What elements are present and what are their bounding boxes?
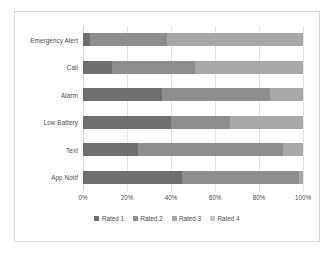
- bar-row: Call: [83, 61, 303, 74]
- bar-segment[interactable]: [138, 143, 283, 156]
- x-tick-label: 20%: [121, 194, 134, 201]
- x-tick-label: 0%: [78, 194, 87, 201]
- legend-label: Rated 3: [179, 215, 201, 222]
- x-tick-label: 40%: [165, 194, 178, 201]
- bar-segment[interactable]: [112, 61, 196, 74]
- legend-label: Rated 1: [102, 215, 124, 222]
- legend-label: Rated 4: [218, 215, 240, 222]
- legend-swatch-icon: [94, 216, 99, 221]
- bar-segment[interactable]: [171, 116, 230, 129]
- legend-swatch-icon: [133, 216, 138, 221]
- bar-segment[interactable]: [83, 88, 162, 101]
- bar-track: [83, 116, 303, 129]
- legend-swatch-icon: [172, 216, 177, 221]
- legend-item-2[interactable]: Rated 2: [133, 215, 163, 222]
- bar-track: [83, 33, 303, 46]
- bar-segment[interactable]: [230, 116, 303, 129]
- bar-segment[interactable]: [270, 88, 303, 101]
- legend-label: Rated 2: [140, 215, 162, 222]
- bar-segment[interactable]: [167, 33, 303, 46]
- category-label: App Notif: [51, 174, 78, 181]
- legend-item-3[interactable]: Rated 3: [172, 215, 202, 222]
- bar-segment[interactable]: [83, 143, 138, 156]
- bar-segment[interactable]: [162, 88, 270, 101]
- gridline-100: [303, 26, 304, 191]
- bar-segment[interactable]: [83, 171, 182, 184]
- bar-segment[interactable]: [195, 61, 303, 74]
- legend-item-1[interactable]: Rated 1: [94, 215, 124, 222]
- bar-segment[interactable]: [283, 143, 303, 156]
- bar-row: Emergency Alert: [83, 33, 303, 46]
- bar-segment[interactable]: [182, 171, 299, 184]
- bar-row: Text: [83, 143, 303, 156]
- bar-series-group: Emergency AlertCallAlarmLow BatteryTextA…: [83, 26, 303, 191]
- category-label: Alarm: [61, 91, 78, 98]
- x-tick-label: 100%: [295, 194, 311, 201]
- bar-segment[interactable]: [83, 116, 171, 129]
- x-axis: 0%20%40%60%80%100%: [83, 194, 303, 208]
- bar-segment[interactable]: [83, 61, 112, 74]
- category-label: Emergency Alert: [30, 36, 78, 43]
- bar-track: [83, 88, 303, 101]
- bar-row: Alarm: [83, 88, 303, 101]
- bar-segment[interactable]: [83, 33, 90, 46]
- bar-segment[interactable]: [299, 171, 303, 184]
- bar-track: [83, 61, 303, 74]
- category-label: Text: [66, 146, 78, 153]
- bar-track: [83, 143, 303, 156]
- x-tick-label: 60%: [209, 194, 222, 201]
- legend-item-4[interactable]: Rated 4: [210, 215, 240, 222]
- plot-area: Emergency AlertCallAlarmLow BatteryTextA…: [83, 26, 303, 191]
- bar-segment[interactable]: [90, 33, 167, 46]
- category-label: Call: [67, 64, 78, 71]
- bar-row: Low Battery: [83, 116, 303, 129]
- category-label: Low Battery: [44, 119, 78, 126]
- bar-row: App Notif: [83, 171, 303, 184]
- legend-swatch-icon: [210, 216, 215, 221]
- chart-legend: Rated 1Rated 2Rated 3Rated 4: [15, 215, 319, 222]
- x-tick-label: 80%: [253, 194, 266, 201]
- chart-frame: Emergency AlertCallAlarmLow BatteryTextA…: [14, 11, 320, 242]
- bar-track: [83, 171, 303, 184]
